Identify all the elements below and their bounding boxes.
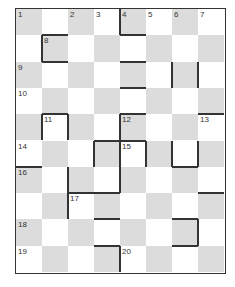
grid-cell[interactable] bbox=[94, 193, 120, 219]
grid-cell[interactable] bbox=[172, 88, 198, 114]
thick-border bbox=[197, 141, 199, 167]
grid-cell[interactable] bbox=[146, 246, 172, 272]
grid-cell[interactable] bbox=[146, 35, 172, 61]
grid-cell[interactable] bbox=[146, 219, 172, 245]
thick-border bbox=[119, 246, 121, 272]
grid-cell[interactable] bbox=[16, 35, 42, 61]
clue-number: 11 bbox=[44, 115, 52, 124]
grid-cell[interactable] bbox=[120, 193, 146, 219]
thick-border bbox=[119, 114, 121, 140]
thick-border bbox=[172, 166, 198, 168]
thick-border bbox=[94, 218, 120, 220]
grid-cell[interactable] bbox=[198, 246, 224, 272]
thick-border bbox=[94, 245, 120, 247]
grid-cell[interactable] bbox=[146, 114, 172, 140]
grid-cell[interactable] bbox=[42, 141, 68, 167]
grid-cell[interactable] bbox=[68, 62, 94, 88]
clue-number: 18 bbox=[18, 220, 27, 229]
grid-cell[interactable] bbox=[172, 193, 198, 219]
grid-cell[interactable] bbox=[42, 219, 68, 245]
grid-cell[interactable] bbox=[172, 141, 198, 167]
grid-cell[interactable] bbox=[146, 141, 172, 167]
thick-border bbox=[119, 9, 121, 35]
grid-cell[interactable] bbox=[68, 246, 94, 272]
grid-cell[interactable] bbox=[172, 114, 198, 140]
grid-cell[interactable] bbox=[172, 219, 198, 245]
grid-cell[interactable] bbox=[94, 114, 120, 140]
thick-border bbox=[67, 167, 69, 193]
grid-cell[interactable] bbox=[94, 141, 120, 167]
grid-cell[interactable] bbox=[42, 62, 68, 88]
grid-cell[interactable] bbox=[198, 219, 224, 245]
grid-cell[interactable] bbox=[68, 141, 94, 167]
clue-number: 3 bbox=[96, 10, 100, 19]
grid-cell[interactable] bbox=[94, 35, 120, 61]
thick-border bbox=[120, 61, 146, 63]
grid-cell[interactable] bbox=[172, 246, 198, 272]
grid-cell[interactable] bbox=[120, 62, 146, 88]
grid-cell[interactable] bbox=[198, 62, 224, 88]
grid-cell[interactable] bbox=[42, 9, 68, 35]
grid-cell[interactable] bbox=[94, 167, 120, 193]
thick-border bbox=[42, 113, 68, 115]
thick-border bbox=[119, 167, 121, 193]
grid-cell[interactable] bbox=[172, 167, 198, 193]
clue-number: 13 bbox=[200, 115, 209, 124]
grid-cell[interactable] bbox=[198, 88, 224, 114]
grid-cell[interactable] bbox=[172, 62, 198, 88]
thick-border bbox=[67, 193, 69, 219]
grid-cell[interactable] bbox=[198, 141, 224, 167]
thick-border bbox=[120, 113, 146, 115]
clue-number: 2 bbox=[70, 10, 74, 19]
grid-cell[interactable] bbox=[172, 35, 198, 61]
grid-cell[interactable] bbox=[120, 35, 146, 61]
clue-number: 16 bbox=[18, 168, 27, 177]
clue-number: 14 bbox=[18, 142, 27, 151]
clue-number: 4 bbox=[122, 10, 126, 19]
grid-cell[interactable] bbox=[94, 219, 120, 245]
clue-number: 8 bbox=[44, 36, 48, 45]
thick-border bbox=[172, 218, 198, 220]
thick-border bbox=[197, 219, 199, 245]
thick-border bbox=[119, 141, 121, 167]
grid-cell[interactable] bbox=[68, 114, 94, 140]
grid-cell[interactable] bbox=[198, 167, 224, 193]
grid-cell[interactable] bbox=[146, 88, 172, 114]
thick-border bbox=[145, 141, 147, 167]
grid-cell[interactable] bbox=[42, 246, 68, 272]
thick-border bbox=[171, 141, 173, 167]
thick-border bbox=[120, 34, 146, 36]
grid-cell[interactable] bbox=[146, 193, 172, 219]
grid-cell[interactable] bbox=[68, 219, 94, 245]
grid-cell[interactable] bbox=[42, 167, 68, 193]
grid-cell[interactable] bbox=[94, 88, 120, 114]
grid-cell[interactable] bbox=[42, 88, 68, 114]
thick-border bbox=[16, 166, 42, 168]
grid-cell[interactable] bbox=[16, 114, 42, 140]
grid-cell[interactable] bbox=[68, 88, 94, 114]
thick-border bbox=[41, 35, 43, 61]
clue-number: 10 bbox=[18, 89, 27, 98]
grid-cell[interactable] bbox=[120, 219, 146, 245]
grid-cell[interactable] bbox=[68, 167, 94, 193]
thick-border bbox=[120, 140, 146, 142]
grid-cell[interactable] bbox=[42, 193, 68, 219]
clue-number: 12 bbox=[122, 115, 131, 124]
grid-cell[interactable] bbox=[68, 35, 94, 61]
grid-cell[interactable] bbox=[198, 35, 224, 61]
thick-border bbox=[94, 192, 120, 194]
grid-cell[interactable] bbox=[94, 246, 120, 272]
clue-number: 20 bbox=[122, 247, 131, 256]
clue-number: 19 bbox=[18, 247, 27, 256]
grid-cell[interactable] bbox=[16, 193, 42, 219]
clue-number: 17 bbox=[70, 194, 79, 203]
grid-cell[interactable] bbox=[146, 62, 172, 88]
grid-cell[interactable] bbox=[146, 167, 172, 193]
grid-cell[interactable] bbox=[198, 193, 224, 219]
thick-border bbox=[68, 192, 94, 194]
grid-cell[interactable] bbox=[94, 62, 120, 88]
thick-border bbox=[94, 140, 120, 142]
grid-cell[interactable] bbox=[120, 88, 146, 114]
clue-number: 5 bbox=[148, 10, 152, 19]
grid-cell[interactable] bbox=[120, 167, 146, 193]
